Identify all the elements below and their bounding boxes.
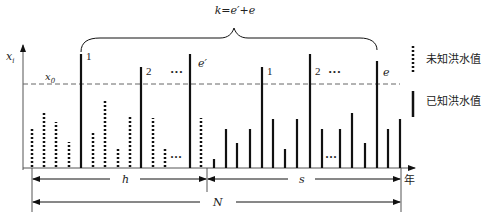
x-axis-label: 年 <box>404 173 415 187</box>
brace <box>81 28 377 52</box>
peak-ellipsis-h: ··· <box>170 64 183 79</box>
peak-label-e: e <box>383 66 390 79</box>
peak-label-e-prime: e′ <box>198 57 208 70</box>
flood-diagram: k=e′+e xi 年 x0 1 2 ··· e′ 1 2 ··· e ··· … <box>0 0 487 221</box>
peak-ellipsis-s: ··· <box>328 64 341 79</box>
legend-dotted-label: 未知洪水值 <box>426 52 481 66</box>
h-label: h <box>122 173 129 186</box>
threshold-label: x0 <box>45 71 56 85</box>
low-ellipsis-s: ··· <box>325 150 337 164</box>
low-ellipsis-h: ··· <box>170 150 182 164</box>
peak-label-s1: 1 <box>267 65 273 77</box>
y-axis-label: xi <box>6 50 14 65</box>
peak-label-s2: 2 <box>315 65 321 77</box>
formula-label: k=e′+e <box>215 4 256 17</box>
peak-label-h1: 1 <box>86 50 92 62</box>
N-label: N <box>212 196 223 209</box>
peak-label-h2: 2 <box>146 65 152 77</box>
legend-solid-label: 已知洪水值 <box>426 94 481 108</box>
s-label: s <box>299 173 305 186</box>
